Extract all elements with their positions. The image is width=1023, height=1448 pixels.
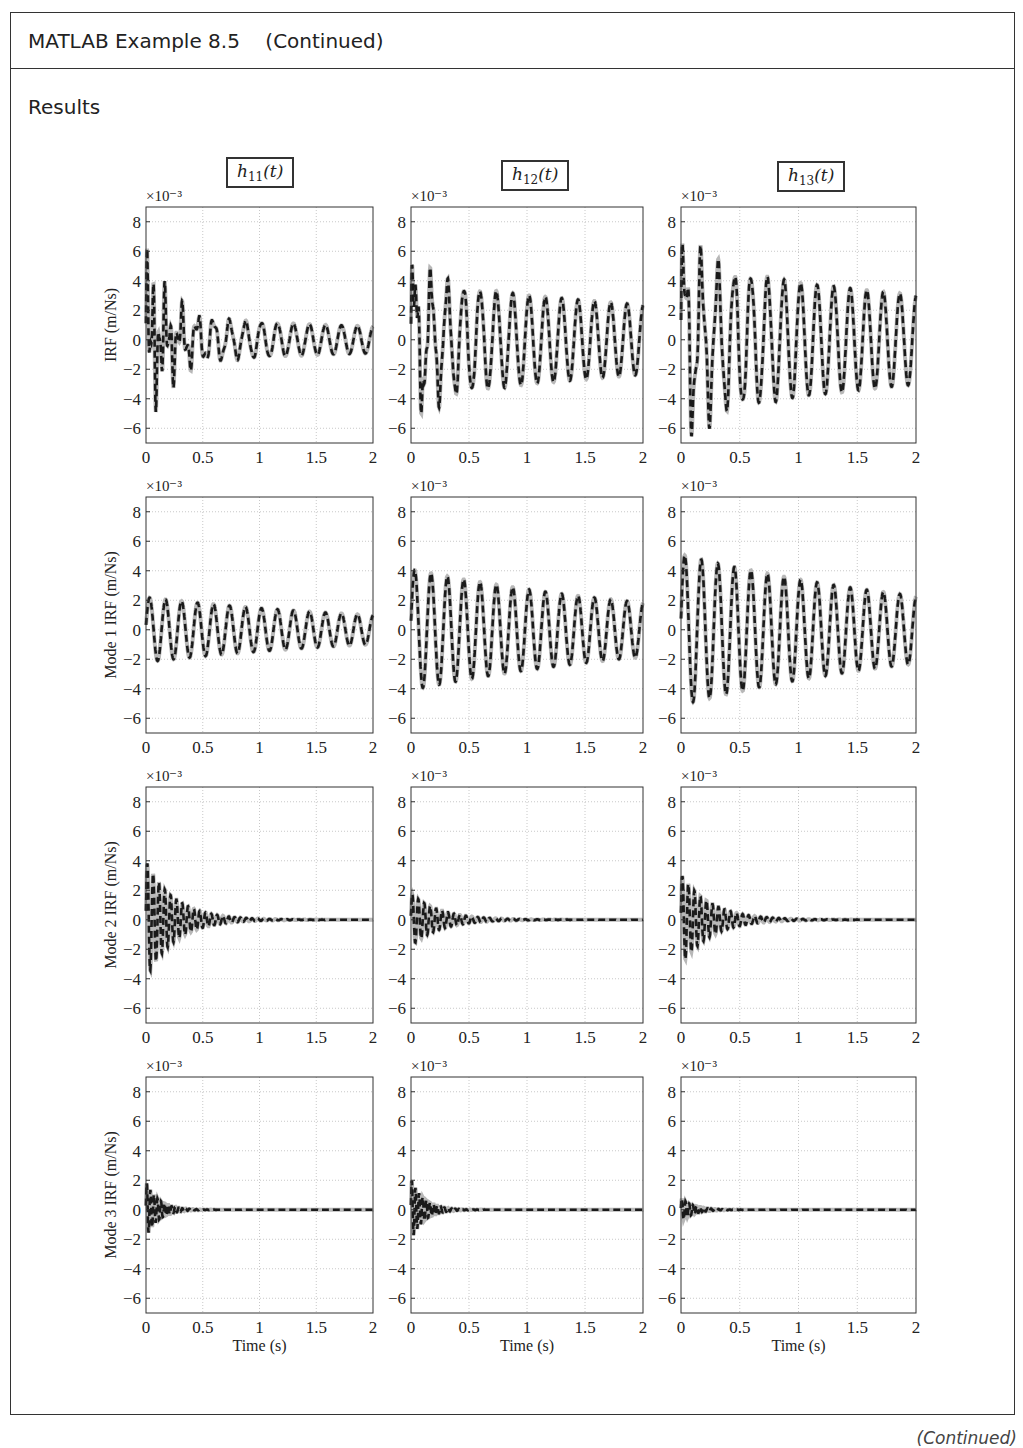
y-tick-label: 8 <box>668 793 677 812</box>
y-exponent-label: ×10⁻³ <box>411 1058 447 1074</box>
x-tick-label: 2 <box>639 1028 648 1047</box>
x-tick-label: 1 <box>523 738 532 757</box>
y-tick-label: 0 <box>668 1201 677 1220</box>
x-tick-label: 2 <box>639 448 648 467</box>
x-tick-label: 1.5 <box>574 738 595 757</box>
y-tick-label: −6 <box>123 419 141 438</box>
x-tick-label: 0.5 <box>458 1028 479 1047</box>
y-tick-label: 4 <box>398 562 407 581</box>
y-tick-label: 2 <box>133 591 142 610</box>
y-tick-label: −6 <box>658 419 676 438</box>
y-tick-label: −2 <box>658 940 676 959</box>
y-tick-label: 8 <box>398 503 407 522</box>
grid-lines <box>681 1077 916 1313</box>
x-tick-label: 2 <box>912 1318 921 1337</box>
y-tick-label: 6 <box>398 532 407 551</box>
x-tick-label: 0 <box>407 738 416 757</box>
y-tick-label: 6 <box>398 822 407 841</box>
y-tick-label: −4 <box>388 390 407 409</box>
y-exponent-label: ×10⁻³ <box>146 188 182 204</box>
y-tick-label: −4 <box>388 1260 407 1279</box>
x-tick-label: 0.5 <box>729 738 750 757</box>
irf-plot-r3-c3: 86420−2−4−600.511.52×10⁻³ <box>681 787 916 1023</box>
y-axis-label: Mode 3 IRF (m/Ns) <box>102 1131 120 1259</box>
x-tick-label: 0.5 <box>458 738 479 757</box>
y-tick-label: −4 <box>123 1260 142 1279</box>
y-exponent-label: ×10⁻³ <box>411 188 447 204</box>
y-tick-label: 8 <box>133 213 142 232</box>
y-tick-label: 0 <box>398 1201 407 1220</box>
y-tick-label: 2 <box>398 301 407 320</box>
y-tick-label: 0 <box>668 911 677 930</box>
y-exponent-label: ×10⁻³ <box>411 478 447 494</box>
continued-note: (Continued) <box>917 1428 1018 1448</box>
x-tick-label: 1 <box>255 1318 264 1337</box>
y-tick-label: 8 <box>133 503 142 522</box>
y-tick-label: −2 <box>123 360 141 379</box>
x-tick-label: 0 <box>142 738 151 757</box>
y-exponent-label: ×10⁻³ <box>146 478 182 494</box>
x-tick-label: 0.5 <box>192 448 213 467</box>
x-tick-label: 0.5 <box>458 448 479 467</box>
x-axis-label: Time (s) <box>500 1337 554 1355</box>
y-tick-label: −4 <box>388 970 407 989</box>
y-tick-label: 8 <box>133 793 142 812</box>
y-tick-label: −2 <box>123 650 141 669</box>
x-tick-label: 0.5 <box>192 738 213 757</box>
y-tick-label: 0 <box>398 621 407 640</box>
x-tick-label: 2 <box>369 738 378 757</box>
y-tick-label: 2 <box>133 881 142 900</box>
x-tick-label: 1.5 <box>574 1028 595 1047</box>
y-tick-label: 4 <box>133 562 142 581</box>
x-tick-label: 1 <box>255 738 264 757</box>
y-tick-label: 4 <box>133 852 142 871</box>
x-tick-label: 0 <box>142 1318 151 1337</box>
x-tick-label: 1 <box>255 1028 264 1047</box>
y-exponent-label: ×10⁻³ <box>681 768 717 784</box>
y-tick-label: −4 <box>123 390 142 409</box>
example-title: MATLAB Example 8.5 (Continued) <box>28 29 384 53</box>
x-tick-label: 0 <box>407 1318 416 1337</box>
y-tick-label: 4 <box>668 272 677 291</box>
y-tick-label: 2 <box>398 591 407 610</box>
x-tick-label: 1.5 <box>847 1028 868 1047</box>
irf-plot-r2-c2: 86420−2−4−600.511.52×10⁻³ <box>411 497 643 733</box>
y-tick-label: −2 <box>388 360 406 379</box>
x-tick-label: 2 <box>369 1318 378 1337</box>
y-tick-label: 6 <box>668 822 677 841</box>
x-tick-label: 0 <box>677 448 686 467</box>
irf-plot-r2-c3: 86420−2−4−600.511.52×10⁻³ <box>681 497 916 733</box>
irf-plot-r2-c1: 86420−2−4−600.511.52×10⁻³Mode 1 IRF (m/N… <box>146 497 373 733</box>
y-tick-label: 0 <box>668 331 677 350</box>
x-tick-label: 0.5 <box>729 1028 750 1047</box>
x-tick-label: 2 <box>369 1028 378 1047</box>
y-exponent-label: ×10⁻³ <box>681 1058 717 1074</box>
y-tick-label: 4 <box>133 272 142 291</box>
y-exponent-label: ×10⁻³ <box>146 1058 182 1074</box>
y-tick-label: 6 <box>668 242 677 261</box>
y-tick-label: 0 <box>398 331 407 350</box>
x-tick-label: 0.5 <box>458 1318 479 1337</box>
y-tick-label: 4 <box>668 1142 677 1161</box>
grid-lines <box>411 787 643 1023</box>
column-title-h12: h12(t) <box>501 160 569 191</box>
y-tick-label: 4 <box>398 852 407 871</box>
y-tick-label: −2 <box>123 940 141 959</box>
x-tick-label: 0.5 <box>729 448 750 467</box>
y-tick-label: 2 <box>668 1171 677 1190</box>
y-tick-label: 4 <box>668 562 677 581</box>
x-tick-label: 1.5 <box>847 738 868 757</box>
y-tick-label: 2 <box>398 881 407 900</box>
x-tick-label: 2 <box>912 1028 921 1047</box>
y-tick-label: 2 <box>668 591 677 610</box>
x-axis-label: Time (s) <box>771 1337 825 1355</box>
x-tick-label: 1 <box>794 738 803 757</box>
x-tick-label: 0 <box>407 1028 416 1047</box>
x-tick-label: 1 <box>523 448 532 467</box>
irf-plot-r4-c3: 86420−2−4−600.511.52×10⁻³Time (s) <box>681 1077 916 1313</box>
x-tick-label: 1 <box>794 1028 803 1047</box>
y-tick-label: 6 <box>133 822 142 841</box>
x-tick-label: 1 <box>794 1318 803 1337</box>
y-exponent-label: ×10⁻³ <box>681 188 717 204</box>
y-tick-label: −2 <box>658 650 676 669</box>
